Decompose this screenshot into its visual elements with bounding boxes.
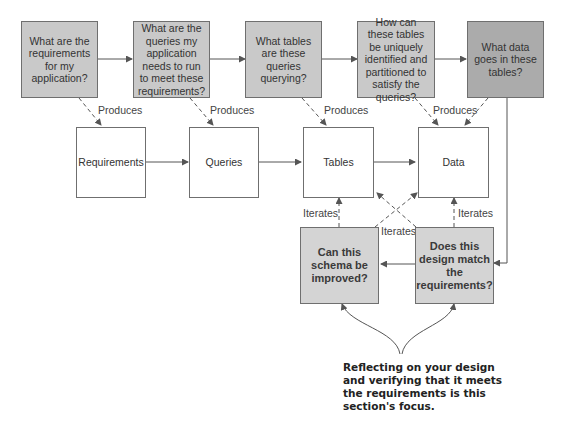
callout-curve-r2 (402, 304, 454, 354)
question-text: What are the queries my application need… (138, 22, 205, 97)
produces-label: Produces (324, 104, 368, 116)
artifact-text: Queries (206, 156, 243, 169)
iterates-label: Iterates (381, 225, 416, 237)
artifact-box-requirements: Requirements (76, 127, 146, 198)
question-text: What data goes in these tables? (472, 41, 539, 79)
artifact-box-data: Data (418, 127, 489, 198)
arrow-q5-r2 (494, 98, 507, 263)
artifact-text: Data (442, 156, 464, 169)
artifact-box-tables: Tables (303, 127, 374, 198)
design-process-diagram: What are the requirements for my applica… (0, 0, 563, 425)
review-text: Can this schema be improved? (305, 246, 374, 285)
question-text: What are the requirements for my applica… (26, 35, 93, 85)
arrow-produces-tables (302, 98, 326, 125)
review-box-schema-improvement: Can this schema be improved? (300, 227, 379, 304)
iterates-label: Iterates (303, 207, 338, 219)
question-box-tables: What tables are these queries querying? (245, 21, 322, 98)
artifact-text: Tables (323, 156, 353, 169)
question-box-partitioning: How can these tables be uniquely identif… (357, 21, 435, 98)
question-box-data: What data goes in these tables? (467, 21, 544, 98)
artifact-box-queries: Queries (189, 127, 259, 198)
iterates-label: Iterates (458, 207, 493, 219)
question-box-requirements: What are the requirements for my applica… (21, 21, 98, 98)
produces-label: Produces (210, 104, 254, 116)
produces-label: Produces (433, 104, 477, 116)
question-box-queries: What are the queries my application need… (133, 21, 210, 98)
question-text: How can these tables be uniquely identif… (362, 16, 430, 104)
artifact-text: Requirements (78, 156, 143, 169)
question-text: What tables are these queries querying? (250, 35, 317, 85)
review-text: Does this design match the requirements? (416, 240, 492, 292)
callout-curve-r1 (342, 304, 400, 354)
produces-label: Produces (98, 104, 142, 116)
review-box-requirements-match: Does this design match the requirements? (415, 227, 494, 304)
annotation-note: Reflecting on your design and verifying … (343, 361, 513, 413)
